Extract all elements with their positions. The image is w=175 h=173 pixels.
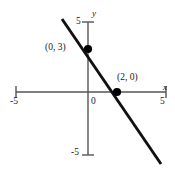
data-point-0-3	[84, 45, 92, 53]
x-axis-tick-label-negative-5: -5	[10, 97, 18, 107]
plot-area	[0, 0, 175, 173]
y-axis-label: y	[92, 9, 96, 18]
y-axis-tick-label-5: 5	[76, 17, 81, 27]
x-axis-label: x	[163, 83, 167, 92]
data-point-2-0	[113, 88, 121, 96]
origin-label: 0	[91, 97, 96, 107]
x-axis-tick-label-5: 5	[160, 97, 165, 107]
coordinate-plane-figure: y x 5 -5 -5 5 0 (0, 3) (2, 0)	[0, 0, 175, 173]
y-axis-tick-label-negative-5: -5	[71, 148, 79, 158]
point-label-0-3: (0, 3)	[45, 43, 66, 53]
point-label-2-0: (2, 0)	[117, 73, 138, 83]
